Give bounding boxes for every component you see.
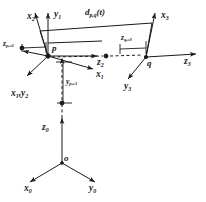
point-label-p: p [52, 44, 57, 53]
axis-label-y0: y0 [89, 184, 96, 194]
marker-c3 [104, 54, 108, 58]
node-markers [20, 46, 148, 164]
axis-label-y1: y1 [54, 10, 61, 20]
axis-label-x0: x0 [24, 184, 32, 194]
axis-label-x2: x2 [27, 12, 35, 22]
axis-label-z3: z3 [184, 57, 191, 67]
marker-c1 [60, 101, 64, 105]
axis-label-x1-y2: x1,y2 [11, 89, 28, 99]
point-label-q: q [147, 59, 152, 68]
axis-label-z2: z2 [97, 58, 104, 68]
axis-label-y3: y3 [124, 82, 131, 92]
frame-q-axes [128, 13, 196, 79]
marker-p [46, 54, 50, 58]
point-label-o: o [64, 154, 69, 163]
vector-label-dpq: dp,q(t) [85, 8, 105, 17]
dimension-label-z-q-c3: zq,c3 [121, 34, 132, 42]
frame-0-axes [30, 118, 95, 182]
marker-o [61, 162, 64, 165]
frame-p-axes [23, 13, 97, 76]
axis-label-x1: x1 [96, 70, 104, 80]
coordinate-frame-diagram: x2 y1 dp,q(t) x3 zp,c2 zq,c3 p q z2 z3 x… [0, 0, 206, 202]
dimension-label-z-p-c2: zp,c2 [3, 40, 14, 48]
marker-c2 [20, 46, 24, 50]
axis-label-x3: x3 [161, 11, 169, 21]
axis-label-z0: z0 [42, 123, 49, 133]
z-q-c3-dimension [120, 41, 146, 54]
diagram-vector-graphics [0, 0, 206, 202]
dimension-label-y-p-c1: yp,c1 [66, 78, 77, 86]
